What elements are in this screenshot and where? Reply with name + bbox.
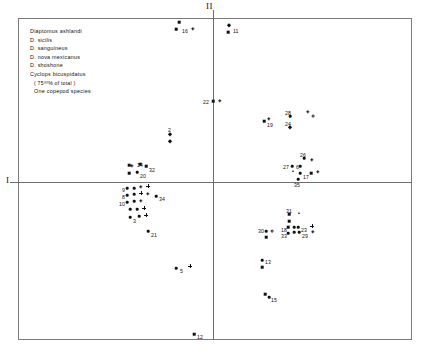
star-marker-icon <box>130 164 133 167</box>
legend-entry-label: D. nova mexicanus <box>30 54 80 60</box>
data-point-6 <box>299 165 302 168</box>
plus-marker-icon <box>310 224 314 228</box>
data-point-label-5: 5 <box>180 268 183 274</box>
square-marker-icon <box>128 164 131 167</box>
data-point-label-13: 13 <box>265 259 271 265</box>
data-point-29 <box>298 231 301 234</box>
data-point <box>218 99 221 102</box>
data-point <box>144 213 148 217</box>
dot-marker-icon <box>297 178 300 181</box>
data-point-label-3: 3 <box>133 218 136 224</box>
star-marker-icon <box>316 170 319 173</box>
legend-entry-label: D. sicilis <box>30 37 52 43</box>
legend-entry-label: Cyclops bicuspidatus <box>30 71 86 77</box>
legend-note: ( 75⁰⁰% of total ) <box>30 80 148 89</box>
data-point <box>128 164 131 167</box>
data-point-27 <box>291 165 294 168</box>
star-marker-icon <box>139 199 142 202</box>
data-point-label-17: 17 <box>303 174 309 180</box>
data-point-34 <box>155 195 158 198</box>
data-point-label-21: 21 <box>151 232 157 238</box>
square-marker-icon <box>178 21 181 24</box>
data-point-label-12: 12 <box>197 334 203 340</box>
data-point <box>316 170 319 173</box>
data-point-label-31: 31 <box>286 208 292 214</box>
data-point <box>142 206 146 210</box>
data-point <box>138 215 141 218</box>
data-point <box>188 264 192 268</box>
data-point-label-2: 2 <box>168 127 171 133</box>
square-marker-icon <box>261 266 264 269</box>
data-point <box>175 28 178 31</box>
dot-marker-icon <box>287 232 290 235</box>
data-point-12 <box>193 333 196 336</box>
data-point-label-14: 14 <box>137 162 143 168</box>
dot-marker-icon <box>133 187 136 190</box>
dot-marker-icon <box>299 165 302 168</box>
legend-symbol-filled-diamond <box>130 28 138 36</box>
legend-symbol-asterisk <box>130 53 138 61</box>
data-point-10 <box>126 201 129 204</box>
star-marker-icon <box>311 230 314 233</box>
star-marker-icon <box>191 27 194 30</box>
data-point-label-11: 11 <box>233 28 239 34</box>
dot-marker-icon <box>298 231 301 234</box>
data-point <box>146 184 150 188</box>
dot-marker-icon <box>291 165 294 168</box>
dot-marker-icon <box>129 208 132 211</box>
legend-entry-label: D. sanguineus <box>30 45 68 51</box>
square-marker-icon <box>128 172 131 175</box>
data-point-label-8: 8 <box>122 194 125 200</box>
dot-marker-icon <box>136 171 139 174</box>
data-point-label-32: 32 <box>149 167 155 173</box>
data-point <box>169 140 172 143</box>
diamond-marker-icon <box>168 139 172 143</box>
dot-marker-icon <box>126 187 129 190</box>
horizontal-axis-line <box>10 182 412 183</box>
dot-marker-icon <box>261 259 264 262</box>
star-marker-icon <box>146 192 149 195</box>
data-point <box>146 192 149 195</box>
square-marker-icon <box>193 333 196 336</box>
legend-symbol-filled-triangle <box>130 45 138 53</box>
data-point-30 <box>265 230 268 233</box>
data-point <box>129 208 132 211</box>
data-point-label-15: 15 <box>271 297 277 303</box>
data-point <box>311 230 314 233</box>
legend-footer-symbol-filled-diamond <box>118 88 126 96</box>
data-point-label-29: 29 <box>302 233 308 239</box>
data-point-label-10: 10 <box>119 201 125 207</box>
data-point-16 <box>178 21 181 24</box>
vertical-axis-line <box>213 10 214 340</box>
square-marker-icon <box>212 100 215 103</box>
data-point-17 <box>299 172 302 175</box>
data-point-label-30: 30 <box>258 228 264 234</box>
data-point <box>310 158 313 161</box>
data-point <box>139 185 142 188</box>
square-marker-icon <box>287 226 290 229</box>
legend: Diaptomus ashlandiD. sicilisD. sanguineu… <box>30 28 148 97</box>
data-point-label-22: 22 <box>203 99 209 105</box>
legend-entry-label: Diaptomus ashlandi <box>30 28 82 34</box>
data-point-label-27: 27 <box>283 164 289 170</box>
data-point-32 <box>145 165 148 168</box>
data-point <box>292 170 294 172</box>
data-point <box>130 164 133 167</box>
data-point-label-19: 19 <box>267 122 273 128</box>
square-marker-icon <box>175 28 178 31</box>
data-point <box>265 236 268 239</box>
data-point <box>268 296 271 299</box>
dot-marker-icon <box>138 215 141 218</box>
legend-symbol-open-circle <box>130 62 138 70</box>
data-point-label-35: 35 <box>294 182 300 188</box>
chart-canvas: II I Diaptomus ashlandiD. sicilisD. sang… <box>0 0 424 354</box>
dot-marker-icon <box>293 231 296 234</box>
legend-footer-entry: One copepod species <box>30 88 148 97</box>
data-point-label-24: 24 <box>285 121 291 127</box>
data-point-19 <box>263 120 266 123</box>
dot-marker-icon <box>268 296 271 299</box>
triangle-marker-icon <box>298 212 300 214</box>
dot-marker-icon <box>265 230 268 233</box>
data-point-5 <box>175 267 178 270</box>
square-marker-icon <box>264 293 267 296</box>
